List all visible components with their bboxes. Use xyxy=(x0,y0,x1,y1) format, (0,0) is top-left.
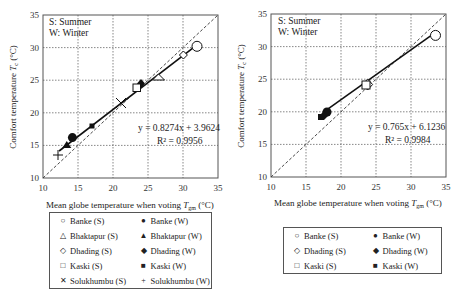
svg-text:10: 10 xyxy=(39,183,49,193)
right-plot: S: Summer W: Winter y = 0.765x + 6.1236 … xyxy=(236,9,451,209)
svg-text:35: 35 xyxy=(442,182,452,192)
left-x-axis-label: Mean globe temperature when voting Tgm (… xyxy=(46,200,214,211)
right-annot-winter: W: Winter xyxy=(278,27,318,37)
right-y-axis-label: Comfort temperature Tc (°C) xyxy=(236,44,247,148)
filled-circle-icon: ● xyxy=(371,232,381,240)
svg-text:25: 25 xyxy=(144,183,154,193)
svg-text:30: 30 xyxy=(407,182,417,192)
marker-kaski-s xyxy=(362,81,370,89)
open-circle-icon: ○ xyxy=(58,217,68,225)
right-x-axis-label: Mean globe temperature when voting Tgm (… xyxy=(274,198,442,209)
left-y-axis-label: Comfort temperature Tc (°C) xyxy=(8,45,19,149)
right-legend: ○Banke (S)●Banke (W) ◇Dhading (S)◆Dhadin… xyxy=(283,227,442,274)
right-r2: R² = 0.9984 xyxy=(385,135,431,145)
filled-circle-icon: ● xyxy=(139,217,149,225)
svg-text:35: 35 xyxy=(214,183,224,193)
open-square-icon: □ xyxy=(58,262,68,270)
marker-banke-w xyxy=(68,133,77,142)
filled-diamond-icon: ◆ xyxy=(371,247,381,255)
svg-text:35: 35 xyxy=(30,10,40,20)
right-x-ticks: 10 15 20 25 30 35 xyxy=(267,182,452,192)
svg-text:15: 15 xyxy=(30,140,40,150)
left-y-ticks: 10 15 20 25 30 35 xyxy=(30,10,40,183)
right-annot-summer: S: Summer xyxy=(278,16,321,26)
left-legend: ○Banke (S)●Banke (W) △Bhaktapur (S)▲Bhak… xyxy=(49,212,212,289)
filled-square-icon: ■ xyxy=(371,262,381,270)
open-square-icon: □ xyxy=(292,262,302,270)
left-annot-winter: W: Winter xyxy=(49,28,89,38)
svg-text:15: 15 xyxy=(74,183,84,193)
marker-kaski-s xyxy=(133,84,141,92)
left-regression-eq: y = 0.8274x + 3.9624 xyxy=(138,123,220,133)
svg-text:30: 30 xyxy=(258,42,268,52)
left-annot-summer: S: Summer xyxy=(49,17,92,27)
left-plot: S: Summer W: Winter y = 0.8274x + 3.9624… xyxy=(8,10,223,211)
svg-text:20: 20 xyxy=(337,182,347,192)
marker-kaski-w xyxy=(318,114,324,120)
svg-text:15: 15 xyxy=(258,139,268,149)
svg-text:15: 15 xyxy=(302,182,312,192)
svg-text:10: 10 xyxy=(267,182,277,192)
marker-banke-s xyxy=(431,30,441,40)
svg-text:25: 25 xyxy=(258,74,268,84)
open-diamond-icon: ◇ xyxy=(292,247,302,255)
svg-text:25: 25 xyxy=(372,182,382,192)
marker-kaski-w xyxy=(90,124,95,129)
filled-square-icon: ■ xyxy=(139,262,149,270)
plus-icon: + xyxy=(139,277,149,285)
svg-text:10: 10 xyxy=(258,172,268,182)
left-r2: R² = 0.9956 xyxy=(157,136,203,146)
open-circle-icon: ○ xyxy=(292,232,302,240)
open-triangle-icon: △ xyxy=(58,232,68,240)
marker-banke-s xyxy=(192,41,202,51)
cross-icon: ✕ xyxy=(58,277,68,285)
filled-triangle-icon: ▲ xyxy=(139,232,149,240)
svg-text:20: 20 xyxy=(30,108,40,118)
svg-text:20: 20 xyxy=(109,183,119,193)
svg-text:30: 30 xyxy=(179,183,189,193)
svg-text:35: 35 xyxy=(258,9,268,19)
right-regression-eq: y = 0.765x + 6.1236 xyxy=(368,122,445,132)
right-y-ticks: 10 15 20 25 30 35 xyxy=(258,9,268,182)
svg-text:30: 30 xyxy=(30,43,40,53)
left-x-ticks: 10 15 20 25 30 35 xyxy=(39,183,224,193)
svg-text:10: 10 xyxy=(30,173,40,183)
svg-text:25: 25 xyxy=(30,75,40,85)
open-diamond-icon: ◇ xyxy=(58,247,68,255)
filled-diamond-icon: ◆ xyxy=(139,247,149,255)
svg-text:20: 20 xyxy=(258,107,268,117)
